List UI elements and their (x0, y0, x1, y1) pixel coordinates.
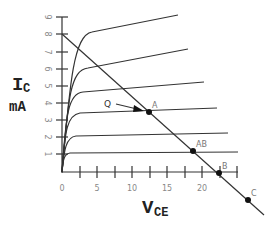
curve-ib-3 (62, 108, 217, 172)
transistor-load-line-diagram: 9 8 7 6 5 4 3 2 1 0 5 10 15 20 (0, 0, 269, 225)
y-tick-5: 5 (43, 83, 52, 88)
y-tick-4: 4 (43, 100, 52, 105)
label-ab: AB (196, 140, 207, 149)
label-c: C (251, 189, 257, 198)
y-axis (56, 17, 68, 173)
x-axis-title: V CE (142, 197, 168, 220)
x-tick-20: 20 (197, 184, 207, 193)
y-tick-1: 1 (43, 151, 52, 156)
x-tick-5: 5 (94, 184, 99, 193)
label-q: Q (104, 99, 111, 109)
y-axis-unit: mA (9, 99, 26, 115)
curve-ib-4 (62, 82, 204, 172)
x-axis-title-sub: CE (154, 206, 168, 220)
y-tick-8: 8 (43, 31, 52, 36)
label-b: B (222, 162, 228, 171)
x-axis-title-main: V (142, 197, 154, 219)
curve-ib-5 (62, 49, 188, 172)
x-tick-15: 15 (162, 184, 172, 193)
x-tick-0: 0 (59, 184, 64, 193)
y-tick-labels: 9 8 7 6 5 4 3 2 1 (43, 14, 52, 156)
y-axis-title-main: I (12, 74, 23, 96)
y-tick-9: 9 (43, 14, 52, 19)
y-axis-title-sub: C (23, 82, 30, 96)
y-tick-3: 3 (43, 117, 52, 122)
curve-ib-6 (62, 15, 178, 172)
x-tick-10: 10 (127, 184, 137, 193)
y-tick-6: 6 (43, 66, 52, 71)
y-tick-7: 7 (43, 49, 52, 54)
x-tick-labels: 0 5 10 15 20 (59, 184, 207, 193)
label-a: A (152, 101, 158, 110)
y-tick-2: 2 (43, 134, 52, 139)
characteristic-curves (62, 15, 238, 172)
y-axis-title: I C mA (9, 74, 30, 115)
